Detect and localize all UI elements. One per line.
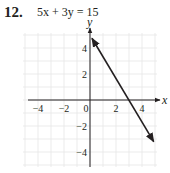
graph: x y −4−2024 42−2−4 (0, 0, 170, 173)
x-tick-label: 2 (114, 103, 119, 114)
x-tick-labels: −4−2024 (33, 103, 145, 114)
x-tick-label: −4 (33, 103, 44, 114)
y-tick-label: 4 (82, 43, 87, 54)
y-tick-label: −4 (76, 147, 87, 158)
x-axis-label: x (161, 93, 168, 107)
y-tick-label: 2 (82, 69, 87, 80)
y-axis-label: y (86, 15, 93, 29)
y-tick-label: −2 (76, 121, 87, 132)
x-tick-label: −2 (59, 103, 70, 114)
x-tick-label: 0 (84, 103, 89, 114)
x-tick-label: 4 (140, 103, 145, 114)
